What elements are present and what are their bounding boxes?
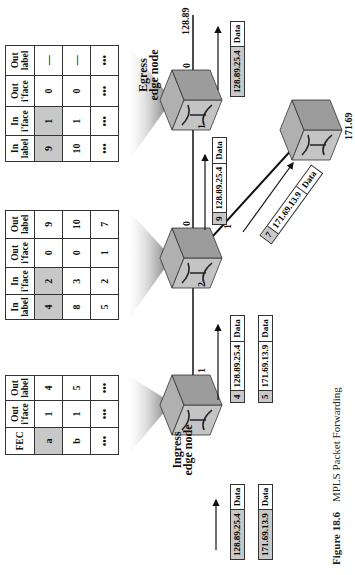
table-header: In i'face (6, 268, 35, 295)
table-cell: 1 (63, 400, 91, 427)
middle-forwarding-table: In label In i'face Out i'face Out label … (5, 210, 119, 320)
table-cell: ••• (91, 46, 119, 76)
table-cell: 10 (63, 211, 91, 239)
table-cell: b (63, 428, 91, 455)
table-row: 9 1 0 — (35, 46, 63, 162)
table-header: Out label (6, 46, 35, 76)
table-cell: 0 (63, 75, 91, 107)
mpls-diagram: FEC Out i'face Out label a 1 4 b 1 5 •••… (0, 0, 355, 575)
packet-hop2-egress: 9 128.89.25.4 Data (212, 137, 227, 225)
packet-addr: 171.69.13.9 (259, 509, 272, 559)
egress-port-1: 1 (196, 124, 207, 129)
router-egress-icon[interactable] (160, 70, 222, 130)
table-cell: 9 (35, 135, 63, 161)
egress-network-label: 128.89 (180, 8, 191, 36)
packet-label: 5 (259, 391, 272, 403)
table-cell: ••• (91, 107, 119, 135)
table-cell: 4 (35, 376, 63, 401)
packet-data: Data (231, 316, 244, 341)
table-cell: 1 (35, 400, 63, 427)
table-header: Out label (6, 211, 35, 239)
table-row: 10 1 0 — (63, 46, 91, 162)
table-cell: 2 (91, 268, 119, 295)
table-cell: — (35, 46, 63, 76)
table-cell: 0 (35, 238, 63, 268)
middle-port-2: 2 (196, 282, 207, 287)
table-cell: 4 (35, 295, 63, 320)
packet-hop1-1: 4 128.89.25.4 Data (230, 315, 245, 403)
ingress-node-label: Ingress edge node (172, 420, 194, 480)
table-cell: 8 (63, 295, 91, 320)
middle-port-0: 0 (181, 221, 192, 226)
branch-network-label: 171.69 (343, 113, 354, 141)
table-header: In i'face (6, 107, 35, 135)
table-cell: — (63, 46, 91, 76)
table-row: 8 3 0 10 (63, 211, 91, 320)
packet-label: 4 (231, 391, 244, 403)
table-cell: 3 (63, 268, 91, 295)
packet-ingress-in-2: 171.69.13.9 Data (258, 484, 273, 560)
table-row: 5 2 1 7 (91, 211, 119, 320)
packet-addr: 128.89.25.4 (231, 46, 244, 96)
packet-data: Data (231, 22, 244, 47)
egress-forwarding-table: In label In i'face Out i'face Out label … (5, 45, 119, 162)
packet-data: Data (213, 138, 226, 163)
packet-addr: 128.89.25.4 (213, 163, 226, 213)
table-cell: a (35, 428, 63, 455)
table-cell: 1 (63, 107, 91, 135)
packet-data: Data (231, 485, 244, 510)
table-row: ••• ••• ••• ••• (91, 46, 119, 162)
table-cell: 5 (91, 295, 119, 320)
router-middle-icon[interactable] (160, 228, 222, 288)
packet-addr: 128.89.25.4 (231, 509, 244, 559)
table-cell: ••• (91, 428, 119, 455)
table-cell: ••• (91, 376, 119, 401)
table-header: Out i'face (6, 400, 35, 427)
table-cell: ••• (91, 135, 119, 161)
ingress-forwarding-table: FEC Out i'face Out label a 1 4 b 1 5 •••… (5, 375, 119, 455)
table-cell: ••• (91, 400, 119, 427)
table-cell: 2 (35, 268, 63, 295)
table-cell: 0 (35, 75, 63, 107)
table-cell: 5 (63, 376, 91, 401)
table-cell: 0 (63, 238, 91, 268)
router-branch-icon[interactable] (280, 100, 342, 160)
table-header: Out i'face (6, 75, 35, 107)
figure-number: Figure 18.6 (330, 512, 342, 565)
table-cell: 1 (91, 238, 119, 268)
packet-label: 9 (213, 213, 226, 225)
table-cell: 9 (35, 211, 63, 239)
table-header: Out label (6, 376, 35, 401)
packet-addr: 128.89.25.4 (231, 341, 244, 391)
table-header: Out i'face (6, 238, 35, 268)
table-header: In label (6, 135, 35, 161)
table-header: FEC (6, 428, 35, 455)
packet-egress-out: 128.89.25.4 Data (230, 21, 245, 97)
table-cell: 7 (91, 211, 119, 239)
table-cell: ••• (91, 75, 119, 107)
packet-data: Data (259, 316, 272, 341)
packet-addr: 171.69.13.9 (259, 341, 272, 391)
egress-port-0: 0 (181, 63, 192, 68)
figure-caption: Figure 18.6MPLS Packet Forwarding (330, 387, 342, 565)
table-header: In label (6, 295, 35, 320)
figure-title: MPLS Packet Forwarding (330, 387, 342, 502)
table-row: b 1 5 (63, 376, 91, 455)
table-row: 4 2 0 9 (35, 211, 63, 320)
packet-data: Data (259, 485, 272, 510)
label-line: edge node (149, 45, 160, 105)
egress-node-label: Egress edge node (138, 45, 160, 105)
table-cell: 10 (63, 135, 91, 161)
packet-ingress-in-1: 128.89.25.4 Data (230, 484, 245, 560)
ingress-port-1: 1 (196, 368, 207, 373)
packet-hop1-2: 5 171.69.13.9 Data (258, 315, 273, 403)
table-cell: 1 (35, 107, 63, 135)
table-row: a 1 4 (35, 376, 63, 455)
table-row: ••• ••• ••• (91, 376, 119, 455)
label-line: edge node (183, 420, 194, 480)
